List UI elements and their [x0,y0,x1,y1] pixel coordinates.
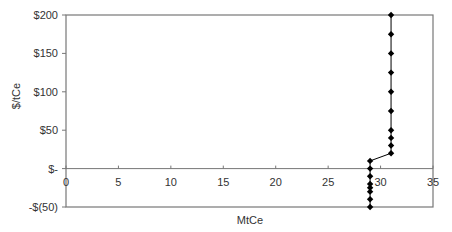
y-tick-label: -$(50) [29,201,58,213]
diamond-marker [388,31,394,37]
diamond-marker [367,158,373,164]
diamond-marker [388,142,394,148]
x-tick-label: 25 [322,176,334,188]
diamond-marker [388,127,394,133]
diamond-marker [367,204,373,210]
chart: $200$150$100$50$--$(50) 05101520253035 $… [0,0,452,232]
diamond-marker [388,150,394,156]
x-tick-label: 0 [63,176,69,188]
x-tick-label: 15 [217,176,229,188]
diamond-marker [367,165,373,171]
y-tick-label: $- [48,163,58,175]
y-tick-label: $200 [34,9,58,21]
diamond-marker [388,135,394,141]
diamond-marker [388,69,394,75]
diamond-marker [388,89,394,95]
diamond-marker [367,181,373,187]
x-tick-label: 10 [165,176,177,188]
x-tick-label: 20 [270,176,282,188]
x-axis-title: MtCe [237,214,263,226]
diamond-marker [388,108,394,114]
y-tick-label: $150 [34,47,58,59]
x-tick-label: 5 [115,176,121,188]
y-axis: $200$150$100$50$--$(50) [29,9,66,213]
diamond-marker [388,12,394,18]
x-tick-label: 35 [427,176,439,188]
y-tick-label: $50 [40,124,58,136]
y-axis-title: $/tCe [10,83,22,109]
diamond-marker [388,50,394,56]
diamond-marker [367,196,373,202]
x-tick-label: 30 [374,176,386,188]
y-tick-label: $100 [34,86,58,98]
diamond-marker [367,173,373,179]
